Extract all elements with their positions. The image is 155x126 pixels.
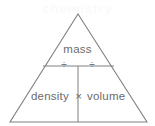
density-triangle-screenshot: chemistry mass ÷ ÷ density × volume [0,0,155,126]
divide-operator-left-icon: ÷ [57,60,71,70]
bottom-right-cell-label-volume: volume [87,91,125,103]
divide-operator-right-icon: ÷ [85,60,99,70]
formula-triangle-diagram [0,0,155,126]
bottom-left-cell-label-density: density [31,91,69,103]
top-cell-label-mass: mass [0,44,155,56]
multiply-operator-icon: × [72,91,85,103]
